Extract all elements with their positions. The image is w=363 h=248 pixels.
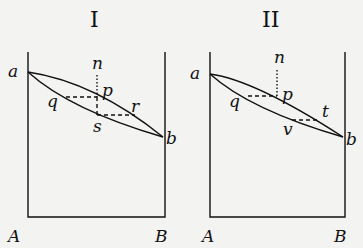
figure-1-title: I <box>90 7 99 32</box>
figure-1-label-n: n <box>92 53 103 73</box>
diagram: I a n p q r s b A B II a n p <box>0 0 363 248</box>
figure-2-label-b: b <box>346 129 357 149</box>
figure-1-label-q: q <box>47 91 58 111</box>
figure-1-label-B: B <box>154 226 168 246</box>
figure-2-box <box>210 52 345 217</box>
figure-2-label-B: B <box>333 226 347 246</box>
figure-2-label-p: p <box>282 84 293 104</box>
figure-2-label-A: A <box>200 226 214 246</box>
figure-2-label-q: q <box>229 91 240 111</box>
figure-2-label-a: a <box>190 63 200 83</box>
figure-2-label-n: n <box>274 47 285 67</box>
figure-1-label-a: a <box>8 61 18 81</box>
figure-2: II a n p q t v b A B <box>190 7 357 246</box>
figure-2-title: II <box>262 7 279 32</box>
figure-1-label-s: s <box>93 116 102 136</box>
figure-1-label-A: A <box>6 226 20 246</box>
figure-1-label-b: b <box>166 128 177 148</box>
figure-1: I a n p q r s b A B <box>6 7 177 246</box>
figure-2-label-t: t <box>322 101 329 121</box>
figure-1-label-r: r <box>131 96 140 116</box>
figure-2-label-v: v <box>283 119 293 139</box>
figure-1-label-p: p <box>102 80 113 100</box>
